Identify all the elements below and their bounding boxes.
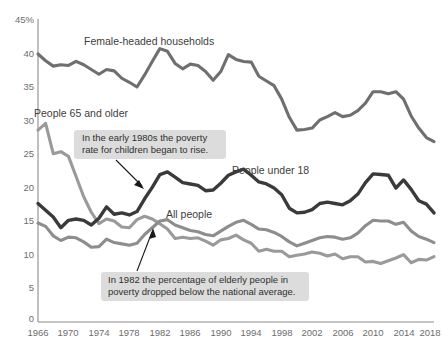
y-tick-label: 5 — [29, 282, 34, 293]
x-tick-label: 2010 — [362, 327, 383, 338]
x-tick-label: 1978 — [118, 327, 139, 338]
x-tick-label: 2014 — [393, 327, 414, 338]
series-label-female-headed-households: Female-headed households — [84, 35, 214, 47]
x-tick-label: 2018 — [419, 327, 440, 338]
poverty-rate-chart: 45% 40 35 30 25 20 15 10 5 0 1966 1970 1… — [0, 0, 442, 346]
x-tick-label: 1970 — [57, 327, 78, 338]
x-tick-label: 1982 — [149, 327, 170, 338]
annotation-children-callout: In the early 1980s the poverty rate for … — [74, 130, 226, 189]
annotation-arrow-head — [134, 180, 144, 189]
y-axis-tick-labels: 45% 40 35 30 25 20 15 10 5 0 — [15, 14, 35, 324]
annotation-text-line-1: In the early 1980s the poverty — [82, 132, 207, 143]
y-tick-label: 0 — [29, 313, 34, 324]
y-tick-label: 15 — [23, 215, 34, 226]
y-tick-label: 40 — [23, 48, 34, 59]
y-tick-label: 35 — [23, 81, 34, 92]
x-tick-label: 1966 — [27, 327, 48, 338]
y-tick-label: 30 — [23, 115, 34, 126]
chart-canvas: 45% 40 35 30 25 20 15 10 5 0 1966 1970 1… — [0, 0, 442, 346]
x-tick-label: 1974 — [88, 327, 109, 338]
annotation-elderly-callout: In 1982 the percentage of elderly people… — [101, 228, 309, 301]
annotation-text-line-2: rate for children began to rise. — [82, 144, 208, 155]
series-label-all-people: All people — [166, 208, 212, 220]
annotation-text-line-1: In 1982 the percentage of elderly people… — [108, 274, 288, 285]
y-tick-label: 20 — [23, 182, 34, 193]
x-tick-label: 2006 — [332, 327, 353, 338]
y-tick-label: 25 — [23, 148, 34, 159]
y-tick-label: 45% — [15, 14, 35, 25]
x-tick-label: 1994 — [240, 327, 261, 338]
series-label-people-under-18: People under 18 — [232, 164, 309, 176]
x-axis-tick-labels: 1966 1970 1974 1978 1982 1986 1990 1994 … — [27, 327, 440, 338]
x-tick-label: 1986 — [179, 327, 200, 338]
annotation-text-line-2: poverty dropped below the national avera… — [108, 286, 296, 297]
y-tick-label: 10 — [23, 249, 34, 260]
series-label-people-65-and-older: People 65 and older — [34, 107, 128, 119]
series-line-female-headed-households — [38, 49, 434, 142]
x-tick-label: 1998 — [271, 327, 292, 338]
x-tick-label: 2002 — [301, 327, 322, 338]
x-tick-label: 1990 — [210, 327, 231, 338]
